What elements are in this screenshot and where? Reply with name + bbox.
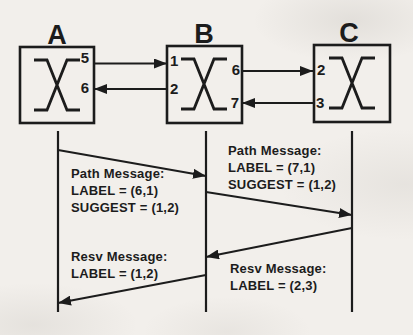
message-line: SUGGEST = (1,2) — [71, 200, 179, 215]
node-a-label: A — [47, 20, 67, 50]
node-b-port-right-bottom: 7 — [231, 94, 239, 111]
message-path-b-to-c-arrow — [206, 192, 352, 215]
message-path-a-to-b-text: Path Message: LABEL = (6,1) SUGGEST = (1… — [71, 166, 179, 215]
node-b-port-left-top: 1 — [170, 52, 178, 69]
message-resv-c-to-b-text: Resv Message: LABEL = (2,3) — [230, 261, 327, 293]
message-line: LABEL = (2,3) — [230, 278, 317, 293]
label-switching-diagram: A 5 6 B 1 2 6 7 C 2 3 — [0, 0, 413, 335]
message-line: LABEL = (7,1) — [228, 160, 315, 175]
node-a-port-right-top: 5 — [81, 49, 89, 66]
crossconnect-icon-b — [181, 59, 227, 109]
message-line: Path Message: — [71, 166, 165, 181]
node-b-label: B — [194, 19, 214, 49]
diagram-svg: A 5 6 B 1 2 6 7 C 2 3 — [0, 0, 413, 335]
message-line: Path Message: — [228, 143, 322, 158]
message-resv-c-to-b-arrow — [206, 228, 352, 257]
message-line: Resv Message: — [230, 261, 327, 276]
crossconnect-icon-a — [34, 60, 80, 110]
node-a-port-right-bottom: 6 — [81, 79, 89, 96]
node-c-port-left-bottom: 3 — [316, 94, 324, 111]
message-line: Resv Message: — [71, 249, 168, 264]
node-b-port-right-top: 6 — [232, 61, 240, 78]
message-resv-b-to-a-text: Resv Message: LABEL = (1,2) — [71, 249, 168, 281]
message-line: LABEL = (1,2) — [71, 266, 158, 281]
node-b-port-left-bottom: 2 — [170, 80, 178, 97]
message-line: SUGGEST = (1,2) — [228, 177, 336, 192]
message-path-b-to-c-text: Path Message: LABEL = (7,1) SUGGEST = (1… — [228, 143, 336, 192]
message-line: LABEL = (6,1) — [71, 183, 158, 198]
node-c-port-left-top: 2 — [317, 61, 325, 78]
node-c-label: C — [339, 18, 359, 48]
node-a: A 5 6 — [20, 20, 94, 123]
node-b: B 1 2 6 7 — [167, 19, 242, 123]
node-c: C 2 3 — [314, 18, 390, 122]
crossconnect-icon-c — [329, 58, 375, 108]
